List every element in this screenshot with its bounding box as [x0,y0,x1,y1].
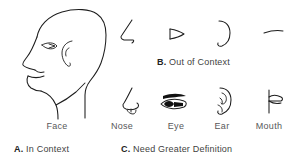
caption-panel-a: A. In Context [14,144,69,154]
caption-c-letter: C. [121,144,130,154]
mouth-detailed-icon [269,90,283,113]
label-eye: Eye [160,121,192,131]
caption-a-letter: A. [14,144,23,154]
eye-simple-icon [170,29,184,39]
line-art-layer [0,0,298,163]
ear-simple-icon [218,21,230,46]
figure-root: Face Nose Eye Ear Mouth A. In Context B.… [0,0,298,163]
eye-detailed-icon [161,94,186,109]
nose-detailed-icon [123,88,139,114]
face-profile-icon [23,10,106,119]
caption-b-letter: B. [157,57,166,67]
caption-panel-c: C. Need Greater Definition [121,144,232,154]
label-face: Face [28,121,86,131]
mouth-simple-icon [264,31,283,33]
label-nose: Nose [103,121,141,131]
label-ear: Ear [206,121,238,131]
caption-panel-b: B. Out of Context [157,57,230,67]
ear-detailed-icon [218,88,231,114]
nose-simple-icon [121,20,134,43]
caption-b-text: Out of Context [166,57,230,67]
label-mouth: Mouth [248,121,290,131]
caption-a-text: In Context [23,144,69,154]
caption-c-text: Need Greater Definition [130,144,232,154]
